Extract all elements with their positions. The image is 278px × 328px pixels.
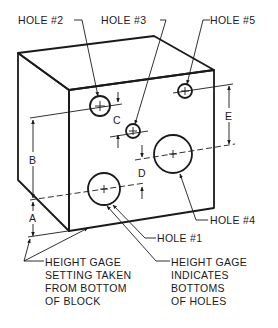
label-hole-3: HOLE #3 [101,14,146,26]
dim-label-c: C [113,114,121,126]
block-top-face [18,36,214,90]
note-right-line-1: HEIGHT GAGE [171,256,247,268]
height-gage-block-diagram: B A C D E HOLE #2 HOLE #3 HOLE #5 H [0,0,278,328]
note-right-line-2: INDICATES [171,269,229,281]
note-left: HEIGHT GAGE SETTING TAKEN FROM BOTTOM OF… [45,256,131,307]
dim-label-d: D [138,167,146,179]
note-left-line-2: SETTING TAKEN [45,269,131,281]
note-left-line-3: FROM BOTTOM [45,282,127,294]
block [18,36,214,231]
dimension-e: E [224,86,235,144]
dim-label-b: B [29,154,36,166]
label-hole-5: HOLE #5 [210,14,255,26]
dimension-c: C [113,92,121,148]
leader-hole-4: HOLE #4 [180,174,255,226]
dimension-d: D [138,145,146,199]
block-left-face [18,53,69,231]
leader-hole-2: HOLE #2 [18,14,98,96]
note-right-line-4: OF HOLES [171,295,227,307]
label-hole-1: HOLE #1 [157,232,202,244]
dim-label-e: E [225,110,232,122]
dim-label-a: A [29,212,36,224]
label-hole-2: HOLE #2 [18,14,63,26]
note-left-line-4: OF BLOCK [45,295,101,307]
extension-lines [28,84,235,237]
note-right-line-3: BOTTOMS [171,282,225,294]
leader-hole-5: HOLE #5 [187,14,255,84]
hole-3 [126,124,140,138]
dimension-b: B [28,120,38,198]
label-hole-4: HOLE #4 [210,214,255,226]
note-right: HEIGHT GAGE INDICATES BOTTOMS OF HOLES [171,256,247,307]
leader-hole-1: HOLE #1 [113,205,202,244]
note-left-line-1: HEIGHT GAGE [45,256,121,268]
dimension-a: A [28,202,38,236]
